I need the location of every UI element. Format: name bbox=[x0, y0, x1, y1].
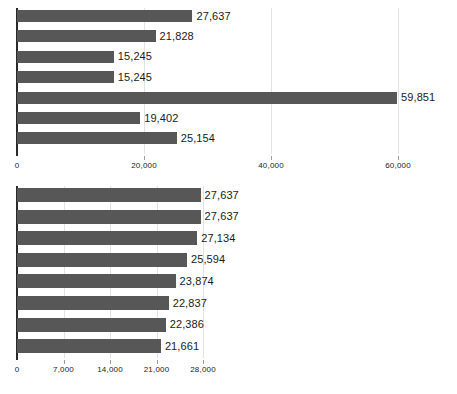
gridline bbox=[271, 8, 272, 154]
bar-value-label: 15,245 bbox=[118, 72, 152, 83]
bar bbox=[17, 10, 192, 22]
bar bbox=[17, 30, 156, 42]
axis-tick-label: 0 bbox=[15, 365, 20, 374]
bar-row: 27,637 bbox=[17, 210, 239, 224]
gridline bbox=[398, 8, 399, 154]
axis-tick-label: 20,000 bbox=[131, 161, 157, 170]
axis-tick bbox=[110, 360, 111, 364]
axis-tick-label: 40,000 bbox=[258, 161, 284, 170]
axis-tick bbox=[203, 360, 204, 364]
bar-value-label: 22,386 bbox=[170, 319, 204, 330]
bar-row: 15,245 bbox=[17, 71, 152, 83]
bar bbox=[17, 112, 140, 124]
bar-row: 19,402 bbox=[17, 112, 178, 124]
bar bbox=[17, 318, 166, 332]
axis-tick-label: 0 bbox=[15, 161, 20, 170]
bar-value-label: 23,874 bbox=[180, 276, 214, 287]
bar bbox=[17, 71, 114, 83]
plot-area-bottom: 27,63727,63727,13425,59423,87422,83722,3… bbox=[17, 186, 457, 358]
bar-value-label: 15,245 bbox=[118, 51, 152, 62]
bar-value-label: 25,154 bbox=[181, 133, 215, 144]
bar-value-label: 19,402 bbox=[144, 113, 178, 124]
bar bbox=[17, 210, 201, 224]
bar-value-label: 21,828 bbox=[160, 31, 194, 42]
bar-row: 25,154 bbox=[17, 132, 215, 144]
axis-tick-label: 7,000 bbox=[53, 365, 74, 374]
axis-tick bbox=[64, 360, 65, 364]
axis-tick bbox=[398, 156, 399, 160]
bar-chart-bottom: 27,63727,63727,13425,59423,87422,83722,3… bbox=[0, 180, 457, 394]
bar-row: 22,837 bbox=[17, 296, 207, 310]
bar-row: 15,245 bbox=[17, 51, 152, 63]
axis-tick bbox=[144, 156, 145, 160]
bar-value-label: 27,637 bbox=[205, 190, 239, 201]
bar bbox=[17, 132, 177, 144]
bar-row: 59,851 bbox=[17, 92, 435, 104]
axis-tick bbox=[271, 156, 272, 160]
bar bbox=[17, 51, 114, 63]
bar bbox=[17, 274, 176, 288]
bar-row: 25,594 bbox=[17, 253, 225, 267]
bar-row: 21,661 bbox=[17, 339, 199, 353]
bar-row: 27,637 bbox=[17, 10, 231, 22]
axis-tick-label: 14,000 bbox=[97, 365, 123, 374]
bar bbox=[17, 92, 397, 104]
bar-value-label: 21,661 bbox=[165, 341, 199, 352]
bar-row: 23,874 bbox=[17, 274, 214, 288]
bar-row: 22,386 bbox=[17, 318, 204, 332]
bar bbox=[17, 253, 187, 267]
bar-value-label: 27,134 bbox=[201, 233, 235, 244]
bar-chart-top: 27,63721,82815,24515,24559,85119,40225,1… bbox=[0, 0, 457, 178]
bar bbox=[17, 296, 169, 310]
bar-row: 27,134 bbox=[17, 231, 235, 245]
bar bbox=[17, 339, 161, 353]
bar bbox=[17, 231, 197, 245]
axis-tick-label: 28,000 bbox=[190, 365, 216, 374]
axis-tick-label: 21,000 bbox=[144, 365, 170, 374]
axis-tick-label: 60,000 bbox=[385, 161, 411, 170]
axis-tick bbox=[157, 360, 158, 364]
bar-value-label: 27,637 bbox=[196, 11, 230, 22]
bar-value-label: 59,851 bbox=[401, 92, 435, 103]
bar bbox=[17, 188, 201, 202]
plot-area-top: 27,63721,82815,24515,24559,85119,40225,1… bbox=[17, 8, 457, 154]
bar-row: 21,828 bbox=[17, 30, 194, 42]
bar-row: 27,637 bbox=[17, 188, 239, 202]
bar-value-label: 22,837 bbox=[173, 298, 207, 309]
bar-value-label: 25,594 bbox=[191, 254, 225, 265]
bar-value-label: 27,637 bbox=[205, 211, 239, 222]
